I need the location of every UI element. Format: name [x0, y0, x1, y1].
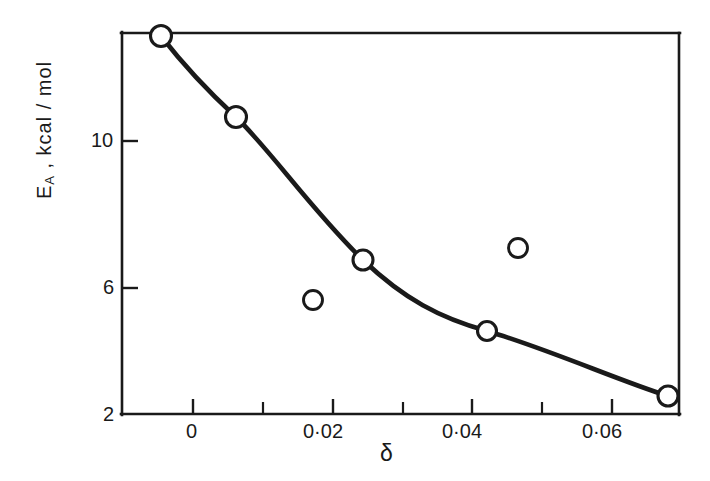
y-axis-ticks — [122, 141, 138, 288]
x-tick-label-002: 0·02 — [303, 420, 343, 443]
y-tick-label-10: 10 — [91, 129, 113, 152]
y-axis-title: EA , kcal / mol — [25, 15, 65, 245]
y-axis-title-rest: , kcal / mol — [33, 61, 55, 175]
x-tick-label-0: 0 — [186, 420, 197, 443]
y-axis-title-symbol: E — [33, 185, 55, 199]
y-axis-title-text: EA , kcal / mol — [33, 61, 57, 199]
figure-container: 10 6 2 0 0·02 0·04 0·06 EA , kcal / mol … — [0, 0, 710, 481]
data-point-outlier — [509, 239, 528, 258]
x-tick-label-006: 0·06 — [582, 420, 622, 443]
y-tick-label-6: 6 — [103, 276, 114, 299]
fitted-curve — [161, 36, 668, 396]
data-point — [353, 250, 373, 270]
data-point — [478, 322, 497, 341]
x-axis-title: δ — [380, 440, 393, 467]
data-point — [658, 386, 678, 406]
x-tick-label-004: 0·04 — [442, 420, 482, 443]
x-axis-ticks-minor — [263, 402, 542, 414]
data-point — [151, 26, 172, 47]
data-point — [226, 107, 247, 128]
y-axis-origin-label: 2 — [103, 403, 114, 426]
series-fitted-curve-points — [151, 26, 679, 407]
data-point-outlier — [304, 291, 323, 310]
y-axis-title-subscript: A — [42, 175, 57, 185]
